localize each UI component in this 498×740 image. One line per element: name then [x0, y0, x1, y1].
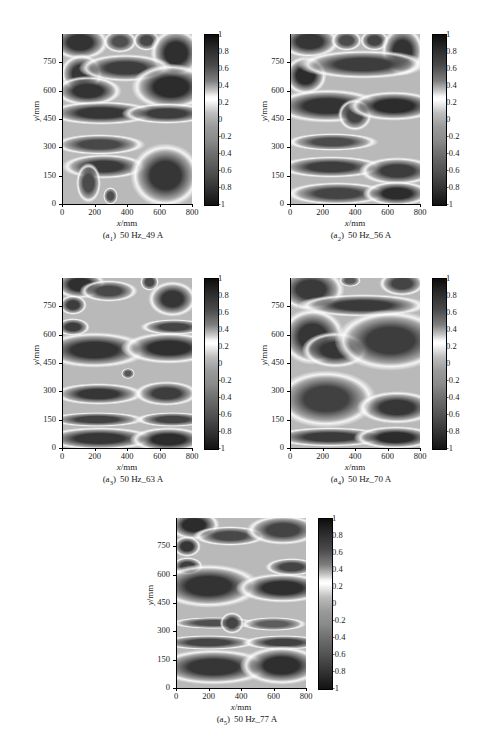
heatmap-blob	[354, 426, 420, 448]
y-tick	[173, 660, 176, 661]
x-tick-label: 600	[373, 207, 403, 217]
colorbar-tick-label: -0.6	[218, 166, 231, 175]
x-axis-title-unit: /mm	[121, 462, 138, 472]
colorbar-tick-label: 0.8	[218, 291, 229, 300]
heatmap-blob	[148, 281, 192, 317]
colorbar-tick-label: 0.2	[446, 342, 457, 351]
x-tick-label: 400	[340, 451, 370, 461]
x-tick-label: 800	[177, 207, 207, 217]
heatmap-blob	[62, 134, 146, 154]
y-axis-title-unit: /mm	[31, 345, 41, 362]
colorbar-a5	[318, 518, 333, 690]
colorbar-tick-label: 0.8	[446, 47, 457, 56]
x-tick-label: 600	[145, 451, 175, 461]
y-tick-label: 300	[28, 142, 56, 151]
x-axis-title-unit: /mm	[349, 218, 366, 228]
colorbar-tick-label: -0.2	[446, 132, 459, 141]
colorbar-tick-label: -0.2	[332, 616, 345, 625]
colorbar-tick-label: -1	[446, 444, 453, 453]
heatmap-blob	[298, 50, 420, 79]
y-axis-title: y/mm	[31, 325, 41, 385]
colorbar-tick-label: 0	[446, 359, 450, 368]
y-tick	[173, 631, 176, 632]
panel-caption-text: 50 Hz_63 A	[120, 474, 164, 484]
x-tick-label: 600	[373, 451, 403, 461]
y-tick	[287, 306, 290, 307]
x-tick-label: 0	[275, 451, 305, 461]
x-tick-label: 200	[308, 207, 338, 217]
colorbar-tick-label: 1	[446, 30, 450, 39]
x-tick-label: 800	[177, 451, 207, 461]
plot-area-a2[interactable]	[290, 34, 420, 204]
y-tick-label: 0	[256, 199, 284, 208]
colorbar-tick-label: -0.2	[218, 132, 231, 141]
y-tick	[59, 363, 62, 364]
heatmap-blob	[176, 536, 201, 558]
panel-caption-a3: (a3)50 Hz_63 A	[28, 474, 238, 486]
heatmap-panel-a4: 02004006008000150300450600750x/mmy/mm10.…	[256, 272, 466, 488]
x-tick-label: 400	[112, 207, 142, 217]
plot-area-a4[interactable]	[290, 278, 420, 448]
y-tick-label: 150	[142, 655, 170, 664]
y-tick-label: 300	[28, 386, 56, 395]
plot-area-a3[interactable]	[62, 278, 192, 448]
x-axis-title-unit: /mm	[349, 462, 366, 472]
y-tick	[287, 147, 290, 148]
x-tick-label: 0	[161, 691, 191, 701]
y-tick	[287, 391, 290, 392]
x-axis-title: x/mm	[290, 462, 420, 472]
y-tick	[287, 335, 290, 336]
plot-area-a5[interactable]	[176, 518, 306, 688]
colorbar-a1	[204, 34, 219, 206]
heatmap-blob	[62, 295, 87, 315]
heatmap-panel-a2: 02004006008000150300450600750x/mmy/mm10.…	[256, 28, 466, 244]
colorbar-tick-label: 0.4	[218, 81, 229, 90]
plot-area-a1[interactable]	[62, 34, 192, 204]
colorbar-tick-label: -0.4	[332, 633, 345, 642]
colorbar-tick-label: 0	[218, 359, 222, 368]
colorbar-tick-label: -0.6	[332, 650, 345, 659]
y-tick	[287, 363, 290, 364]
heatmap-field	[62, 278, 192, 448]
colorbar-tick-label: 0.6	[446, 64, 457, 73]
y-axis-title-unit: /mm	[259, 101, 269, 118]
panel-tag-open: (a	[331, 230, 338, 240]
x-tick-label: 200	[80, 207, 110, 217]
heatmap-blob	[290, 133, 379, 151]
y-axis-title: y/mm	[145, 565, 155, 625]
heatmap-blob	[62, 412, 146, 426]
panel-tag-close: )	[113, 474, 116, 484]
heatmap-blob	[134, 381, 192, 406]
colorbar-a3	[204, 278, 219, 450]
y-axis-title-unit: /mm	[259, 345, 269, 362]
heatmap-blob	[363, 181, 420, 204]
y-tick	[173, 688, 176, 689]
heatmap-field	[62, 34, 192, 204]
y-axis-title-unit: /mm	[31, 101, 41, 118]
colorbar-tick-label: -0.6	[218, 410, 231, 419]
colorbar-tick-label: 0	[218, 115, 222, 124]
heatmap-blob	[331, 34, 362, 51]
x-tick-label: 200	[308, 451, 338, 461]
panel-tag-close: )	[341, 474, 344, 484]
colorbar-tick-label: 0.4	[332, 565, 343, 574]
x-axis-title: x/mm	[62, 218, 192, 228]
heatmap-blob	[62, 383, 145, 405]
y-axis-title-unit: /mm	[145, 585, 155, 602]
y-axis-title-var: y	[31, 361, 41, 365]
panel-tag-open: (a	[217, 714, 224, 724]
heatmap-blob	[130, 427, 192, 448]
y-axis-title: y/mm	[259, 325, 269, 385]
x-axis-title-unit: /mm	[121, 218, 138, 228]
colorbar-tick-label: 0.6	[218, 64, 229, 73]
colorbar-tick-label: -1	[218, 444, 225, 453]
heatmap-blob	[103, 34, 137, 53]
y-tick	[173, 575, 176, 576]
y-tick-label: 750	[28, 301, 56, 310]
colorbar-tick-label: 0.6	[332, 548, 343, 557]
panel-tag-open: (a	[103, 230, 110, 240]
x-tick-label: 400	[226, 691, 256, 701]
y-tick	[59, 119, 62, 120]
x-tick-label: 0	[275, 207, 305, 217]
colorbar-tick-label: -0.4	[218, 149, 231, 158]
